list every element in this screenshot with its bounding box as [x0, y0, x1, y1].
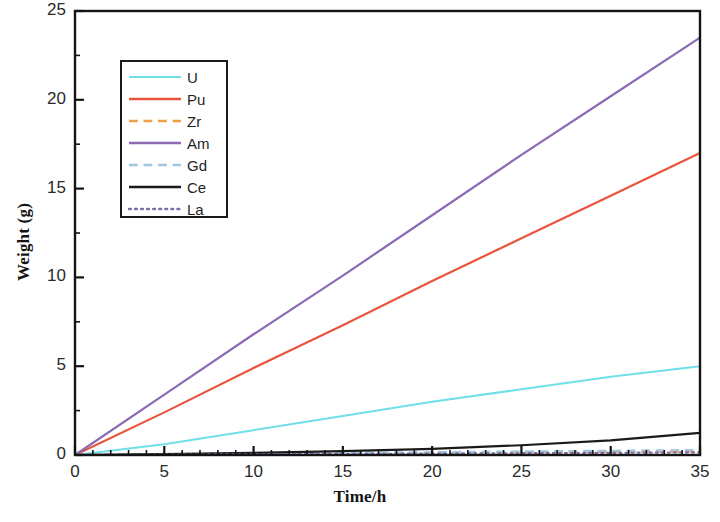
- legend-item-pu: Pu: [122, 88, 230, 110]
- legend-swatch-zr: [127, 114, 183, 128]
- legend-item-la: La: [122, 198, 230, 220]
- y-tick-label: 10: [26, 266, 66, 286]
- legend-swatch-la: [127, 202, 183, 216]
- legend-label: U: [187, 70, 198, 85]
- x-axis-title: Time/h: [0, 487, 720, 507]
- x-tick-label: 10: [234, 462, 274, 482]
- x-tick-label: 20: [412, 462, 452, 482]
- legend-label: La: [187, 202, 204, 217]
- y-tick-label: 5: [26, 355, 66, 375]
- legend-label: Pu: [187, 92, 205, 107]
- y-tick-label: 0: [26, 444, 66, 464]
- x-tick-label: 30: [591, 462, 631, 482]
- legend-label: Am: [187, 136, 210, 151]
- x-tick-label: 25: [501, 462, 541, 482]
- chart-figure: Weight (g) Time/h 05101520253035 0510152…: [0, 0, 720, 522]
- legend-item-gd: Gd: [122, 154, 230, 176]
- x-tick-label: 15: [323, 462, 363, 482]
- legend-item-ce: Ce: [122, 176, 230, 198]
- line-chart-plot: [0, 0, 720, 522]
- x-tick-label: 0: [55, 462, 95, 482]
- legend-label: Gd: [187, 158, 207, 173]
- legend-swatch-ce: [127, 180, 183, 194]
- legend-item-am: Am: [122, 132, 230, 154]
- y-tick-label: 25: [26, 0, 66, 20]
- x-tick-label: 35: [680, 462, 720, 482]
- legend-label: Zr: [187, 114, 201, 129]
- chart-legend: UPuZrAmGdCeLa: [120, 60, 228, 218]
- legend-item-zr: Zr: [122, 110, 230, 132]
- legend-swatch-pu: [127, 92, 183, 106]
- legend-item-u: U: [122, 66, 230, 88]
- legend-swatch-u: [127, 70, 183, 84]
- y-tick-label: 15: [26, 178, 66, 198]
- x-tick-label: 5: [144, 462, 184, 482]
- legend-swatch-gd: [127, 158, 183, 172]
- legend-swatch-am: [127, 136, 183, 150]
- y-tick-label: 20: [26, 89, 66, 109]
- legend-label: Ce: [187, 180, 206, 195]
